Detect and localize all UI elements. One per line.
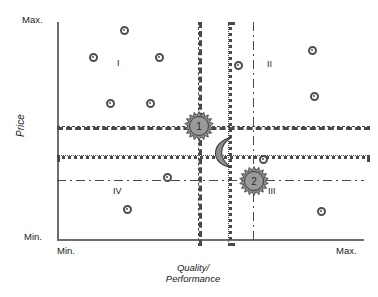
competitor-marker [163, 173, 172, 182]
quadrant-label-i: I [117, 58, 120, 68]
competitor-marker [123, 205, 132, 214]
sun-label-1: 1 [184, 111, 214, 141]
competitor-marker [310, 92, 319, 101]
quality-right-dashdot-line [253, 22, 254, 240]
y-axis-max-label: Max. [22, 14, 43, 25]
crescent-moon-icon [214, 136, 236, 172]
competitor-marker [155, 53, 164, 62]
y-axis-title: Price [15, 96, 26, 156]
y-axis-min-label: Min. [24, 231, 42, 242]
x-axis-title-line2: Performance [166, 273, 220, 284]
x-axis-max-label: Max. [336, 245, 357, 256]
competitor-marker [308, 46, 317, 55]
sun-icon-1: 1 [184, 111, 214, 141]
quadrant-label-ii: II [267, 59, 272, 69]
quality-mid-dotted-line [228, 22, 232, 246]
competitor-marker [120, 26, 129, 35]
price-quality-positioning-chart: Max. Min. Min. Max. Price Quality/ Perfo… [0, 0, 378, 297]
sun-label-2: 2 [239, 166, 269, 196]
x-axis-line [57, 239, 364, 241]
price-lower-dashdot-line [57, 180, 364, 181]
y-axis-line [57, 22, 59, 240]
competitor-marker [106, 99, 115, 108]
x-axis-min-label: Min. [57, 245, 75, 256]
sun-icon-2: 2 [239, 166, 269, 196]
x-axis-title: Quality/ Performance [138, 262, 248, 284]
x-axis-title-line1: Quality/ [177, 262, 209, 273]
quadrant-label-iv: IV [113, 186, 122, 196]
competitor-marker [234, 61, 243, 70]
competitor-marker [259, 155, 268, 164]
competitor-marker [89, 53, 98, 62]
competitor-marker [317, 207, 326, 216]
competitor-marker [146, 99, 155, 108]
quadrant-label-iii: III [268, 186, 276, 196]
